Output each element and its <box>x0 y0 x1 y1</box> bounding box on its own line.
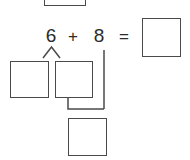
sum-box[interactable] <box>68 118 107 156</box>
math-worksheet-canvas: 6 + 8 = <box>0 0 190 160</box>
